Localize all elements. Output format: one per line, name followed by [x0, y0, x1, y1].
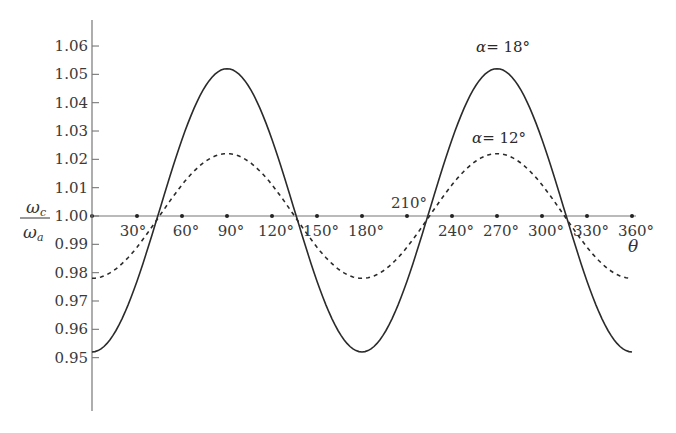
x-tick-label: 240°: [438, 222, 474, 240]
x-tick-dot: [180, 214, 184, 218]
x-tick-dot: [585, 214, 589, 218]
y-tick-label: 0.99: [55, 235, 88, 253]
y-tick-label: 1.06: [55, 37, 88, 55]
y-tick-label: 1.04: [55, 94, 88, 112]
x-tick-dot: [270, 214, 274, 218]
curve-label-alpha-18: α= 18°: [476, 38, 530, 56]
y-tick-label: 1.00: [55, 207, 88, 225]
x-tick-dot: [225, 214, 229, 218]
y-tick-label: 1.03: [55, 122, 88, 140]
x-tick-dot: [135, 214, 139, 218]
x-tick-dot: [405, 214, 409, 218]
x-tick-label: 180°: [348, 222, 384, 240]
y-axis-label: ωc ωa: [20, 197, 50, 244]
y-tick-label: 0.97: [55, 292, 88, 310]
y-tick-label: 0.98: [55, 264, 88, 282]
curve-alpha-18: [92, 69, 632, 352]
x-tick-dot: [630, 214, 634, 218]
x-tick-label: 330°: [573, 222, 609, 240]
x-tick-dot: [540, 214, 544, 218]
x-tick-dot: [360, 214, 364, 218]
plot-curves: [92, 69, 632, 352]
y-tick-label: 0.96: [55, 320, 88, 338]
y-tick-label: 1.05: [55, 65, 88, 83]
x-tick-dot: [450, 214, 454, 218]
x-tick-dot: [315, 214, 319, 218]
x-tick-label: 150°: [303, 222, 339, 240]
x-axis-label: θ: [628, 236, 638, 256]
svg-text:ωa: ωa: [23, 222, 43, 244]
x-tick-label: 90°: [218, 222, 245, 240]
curve-label-alpha-12: α= 12°: [472, 129, 526, 147]
x-tick-label: 30°: [120, 222, 147, 240]
x-tick-label: 210°: [391, 194, 427, 212]
svg-text:ωc: ωc: [26, 197, 46, 219]
x-tick-label: 120°: [258, 222, 294, 240]
y-tick-label: 1.02: [55, 150, 88, 168]
y-tick-label: 1.01: [55, 179, 88, 197]
y-tick-label: 0.95: [55, 349, 88, 367]
chart: 0.950.960.970.980.991.001.011.021.031.04…: [0, 0, 676, 433]
x-tick-dot: [495, 214, 499, 218]
x-tick-label: 270°: [483, 222, 519, 240]
x-tick-label: 300°: [528, 222, 564, 240]
x-tick-label: 60°: [173, 222, 200, 240]
x-axis: 30°60°90°120°150°180°210°240°270°300°330…: [90, 194, 654, 240]
